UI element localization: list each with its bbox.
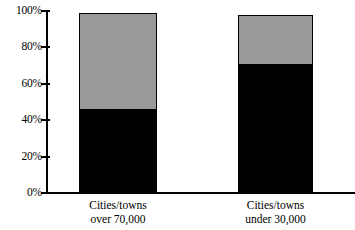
y-axis-tick-label: 100% <box>16 5 42 17</box>
category-label: Cities/townsunder 30,000 <box>206 199 346 226</box>
bar-stack[interactable] <box>79 13 157 193</box>
category-label-line1: Cities/towns <box>89 199 147 211</box>
y-axis-tick <box>41 156 50 158</box>
y-axis-tick-label: 40% <box>22 114 42 126</box>
category-label-line2: under 30,000 <box>206 213 346 227</box>
y-axis-tick <box>41 83 50 85</box>
y-axis-tick-label: 60% <box>22 78 42 90</box>
y-axis-line <box>46 11 48 194</box>
bar-stack[interactable] <box>238 15 313 193</box>
y-axis-tick-label: 80% <box>22 41 42 53</box>
category-label: Cities/townsover 70,000 <box>48 199 188 226</box>
y-axis-tick-label: 0% <box>27 187 42 199</box>
y-axis-tick-label: 20% <box>22 151 42 163</box>
category-label-line1: Cities/towns <box>247 199 305 211</box>
bar-segment-gray[interactable] <box>239 16 312 65</box>
bar-segment-gray[interactable] <box>80 14 156 109</box>
y-axis-tick <box>41 46 50 48</box>
stacked-bar-chart: 0%20%40%60%80%100% Cities/townsover 70,0… <box>0 0 355 230</box>
bar-segment-black[interactable] <box>239 64 312 192</box>
y-axis-tick <box>41 10 50 12</box>
bar-segment-black[interactable] <box>80 109 156 192</box>
category-label-line2: over 70,000 <box>48 213 188 227</box>
y-axis-tick <box>41 119 50 121</box>
